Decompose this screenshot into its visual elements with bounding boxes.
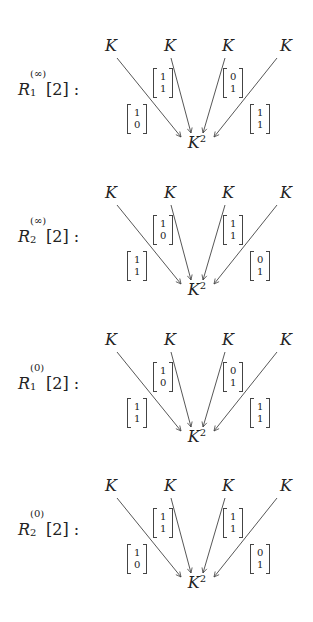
source-node-2: K <box>164 183 176 202</box>
source-node-1: K <box>105 330 117 349</box>
representation-diagram: R(∞)1[2] : K K K K K2 10 11 01 11 <box>0 0 313 150</box>
arrow-3 <box>203 58 225 133</box>
arrow-2 <box>171 58 191 133</box>
target-node: K2 <box>188 573 206 592</box>
vector-3: 01 <box>223 68 243 98</box>
vector-1: 11 <box>127 398 147 428</box>
source-node-3: K <box>222 476 234 495</box>
vector-1: 10 <box>127 544 147 574</box>
source-node-4: K <box>280 183 292 202</box>
representation-diagram: R(0)1[2] : K K K K K2 11 10 01 11 <box>0 294 313 444</box>
vector-3: 11 <box>223 508 243 538</box>
vector-3: 01 <box>223 362 243 392</box>
arrow-2 <box>171 498 191 573</box>
source-node-2: K <box>164 36 176 55</box>
source-node-2: K <box>164 476 176 495</box>
vector-2: 11 <box>153 68 173 98</box>
vector-2: 10 <box>153 215 173 245</box>
representation-diagram: R(0)2[2] : K K K K K2 10 11 11 01 <box>0 440 313 590</box>
vector-4: 11 <box>250 398 270 428</box>
vector-1: 11 <box>127 251 147 281</box>
vector-2: 10 <box>153 362 173 392</box>
source-node-1: K <box>105 183 117 202</box>
vector-3: 11 <box>223 215 243 245</box>
source-node-3: K <box>222 36 234 55</box>
source-node-3: K <box>222 330 234 349</box>
vector-4: 11 <box>250 104 270 134</box>
source-node-3: K <box>222 183 234 202</box>
arrow-2 <box>171 205 191 280</box>
vector-4: 01 <box>250 544 270 574</box>
source-node-4: K <box>280 476 292 495</box>
vector-4: 01 <box>250 251 270 281</box>
arrow-3 <box>203 352 225 427</box>
arrow-2 <box>171 352 191 427</box>
source-node-1: K <box>105 36 117 55</box>
source-node-1: K <box>105 476 117 495</box>
source-node-4: K <box>280 36 292 55</box>
arrow-3 <box>203 205 225 280</box>
vector-2: 11 <box>153 508 173 538</box>
representation-diagram: R(∞)2[2] : K K K K K2 11 10 11 01 <box>0 147 313 297</box>
source-node-4: K <box>280 330 292 349</box>
vector-1: 10 <box>127 104 147 134</box>
source-node-2: K <box>164 330 176 349</box>
arrow-3 <box>203 498 225 573</box>
